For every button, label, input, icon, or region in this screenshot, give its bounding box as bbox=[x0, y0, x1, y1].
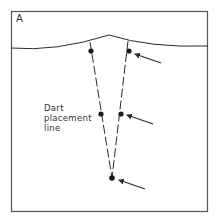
arrow-top-icon bbox=[135, 54, 161, 63]
dart-leg-right bbox=[112, 41, 128, 178]
dart-leg-left bbox=[90, 42, 112, 178]
panel-letter: A bbox=[16, 14, 23, 24]
dart-placement-label: Dart placement line bbox=[44, 104, 92, 133]
diagram-svg bbox=[0, 0, 218, 223]
dot-right-top-icon bbox=[126, 48, 131, 53]
label-line: line bbox=[44, 124, 92, 134]
arrow-mid-icon bbox=[127, 115, 153, 124]
dot-left-mid-icon bbox=[98, 111, 103, 116]
dart-diagram: A Dart placement line bbox=[0, 0, 218, 223]
panel-frame bbox=[12, 12, 208, 212]
seam-curve bbox=[11, 35, 208, 49]
dot-apex-icon bbox=[109, 175, 115, 181]
arrow-bottom-icon bbox=[119, 180, 145, 189]
dot-left-top-icon bbox=[88, 48, 93, 53]
dot-right-mid-icon bbox=[118, 111, 123, 116]
